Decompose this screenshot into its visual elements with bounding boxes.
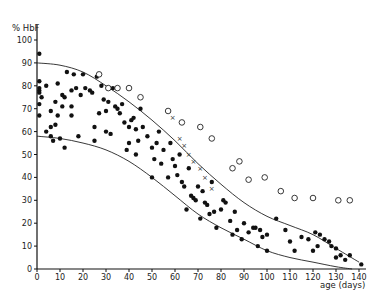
filled-dot [92,139,96,143]
filled-dot [115,107,119,111]
filled-dot [329,244,333,248]
x-tick-label: 50 [147,273,157,282]
y-tick-label: 20 [22,219,32,228]
upper-envelope-curve [37,63,359,262]
x-tick-label: 30 [101,273,111,282]
filled-dot [228,219,232,223]
filled-dot [315,244,319,248]
y-ticks: 0102030405060708090100 [17,36,37,274]
filled-dot [37,52,41,56]
x-tick-label: 40 [124,273,134,282]
filled-dot [134,127,138,131]
filled-dot [118,111,122,115]
filled-dot [136,139,140,143]
filled-dot [152,157,156,161]
filled-dot [274,216,278,220]
filled-dot [168,141,172,145]
filled-dot [69,88,73,92]
open-circle [347,198,353,204]
open-circle [278,188,284,194]
filled-dot [240,237,244,241]
filled-dot [49,109,53,113]
filled-dot [79,93,83,97]
filled-dot [134,152,138,156]
cross-marker: × [181,142,187,150]
filled-dot [150,175,154,179]
open-circle [246,177,252,183]
x-tick-label: 80 [216,273,226,282]
filled-dot [223,200,227,204]
y-tick-label: 90 [22,59,32,68]
filled-dot [49,134,53,138]
filled-dot [166,175,170,179]
y-tick-label: 40 [22,173,32,182]
x-tick-label: 10 [55,273,65,282]
filled-dot [58,136,62,140]
filled-dot [106,100,110,104]
filled-dot [175,173,179,177]
filled-dot [292,248,296,252]
filled-dot [74,86,78,90]
filled-dot [76,134,80,138]
filled-dot [49,125,53,129]
filled-dot [131,116,135,120]
filled-dot [127,141,131,145]
filled-dot [196,184,200,188]
cross-marker: × [170,114,176,122]
y-tick-label: 10 [22,242,32,251]
filled-dot [288,239,292,243]
filled-dot [265,248,269,252]
filled-dot [242,221,246,225]
filled-dot [37,79,41,83]
y-tick-label: 50 [22,151,32,160]
filled-dot [194,198,198,202]
filled-dot [299,235,303,239]
x-axis-label: age (days) [320,280,365,290]
filled-dot [230,232,234,236]
filled-dot [104,129,108,133]
filled-dot [161,148,165,152]
y-tick-label: 0 [27,265,32,274]
filled-dot [246,230,250,234]
y-tick-label: 60 [22,128,32,137]
filled-dot [260,235,264,239]
filled-dot [171,157,175,161]
filled-dot [56,113,60,117]
filled-dot [334,246,338,250]
filled-dot [159,161,163,165]
y-axis-label: % HbF [12,23,40,33]
x-tick-label: 110 [282,273,297,282]
filled-dot [65,70,69,74]
filled-dot [150,145,154,149]
filled-dot [53,123,57,127]
x-tick-label: 20 [78,273,88,282]
cross-marker: × [209,185,215,193]
filled-dot [334,255,338,259]
x-tick-label: 0 [34,273,39,282]
cross-marker: × [202,174,208,182]
filled-dot [283,228,287,232]
filled-dot [313,230,317,234]
filled-dot [145,134,149,138]
filled-dot [108,132,112,136]
filled-dot [69,104,73,108]
open-circle [106,85,112,91]
y-tick-label: 30 [22,196,32,205]
x-tick-label: 100 [259,273,274,282]
filled-dot [338,253,342,257]
x-tick-label: 70 [193,273,203,282]
filled-dot [182,184,186,188]
filled-dot [157,129,161,133]
filled-dot [311,248,315,252]
filled-dot [327,239,331,243]
filled-dot [51,139,55,143]
y-tick-label: 80 [22,82,32,91]
filled-dot [44,129,48,133]
filled-dot [235,228,239,232]
filled-dot [104,109,108,113]
filled-dot [37,102,41,106]
filled-dot [83,86,87,90]
filled-dot [306,237,310,241]
filled-dot [214,226,218,230]
filled-dot [200,189,204,193]
